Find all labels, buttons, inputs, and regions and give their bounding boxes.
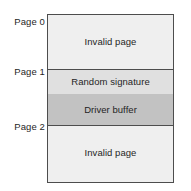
memory-page-diagram: Page 0 Page 1 Page 2 Invalid page Random… — [0, 0, 191, 191]
region-label-random-signature: Random signature — [71, 76, 149, 88]
region-label-invalid-page-bottom: Invalid page — [85, 147, 137, 159]
page-label-page-2: Page 2 — [0, 121, 45, 132]
page-label-page-1: Page 1 — [0, 66, 45, 77]
memory-map-box: Invalid page Random signature Driver buf… — [47, 14, 174, 183]
region-label-driver-buffer: Driver buffer — [84, 104, 137, 116]
page-label-page-0: Page 0 — [0, 16, 45, 27]
region-page2-invalid-page: Invalid page — [48, 126, 173, 180]
region-page1-driver-buffer: Driver buffer — [48, 94, 173, 126]
region-label-invalid-page-top: Invalid page — [85, 36, 137, 48]
region-page0-invalid-page: Invalid page — [48, 15, 173, 70]
region-page1-random-signature: Random signature — [48, 70, 173, 94]
